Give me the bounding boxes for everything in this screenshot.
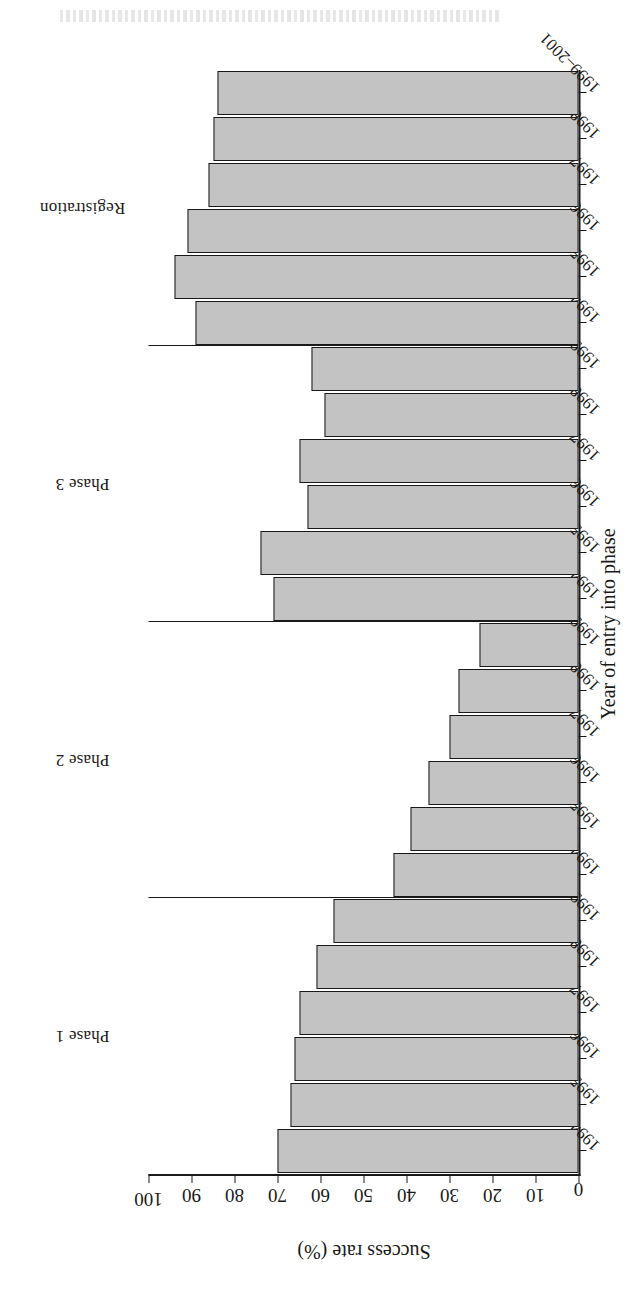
bar — [449, 715, 578, 759]
category-axis-title: Year of entry into phase — [596, 72, 619, 1176]
value-axis-tick-label: 60 — [309, 1185, 331, 1204]
group-label-text: Registration — [39, 198, 125, 218]
bar — [213, 117, 579, 161]
bar — [324, 393, 578, 437]
value-axis-tick-label: 0 — [567, 1185, 589, 1195]
category-axis-title-text: Year of entry into phase — [596, 528, 618, 719]
value-axis-tick — [191, 1174, 192, 1183]
bar — [174, 255, 578, 299]
value-axis-tick — [320, 1174, 321, 1183]
group-label: Phase 2 — [20, 622, 144, 898]
bar — [187, 209, 578, 253]
group-label-text: Phase 2 — [55, 750, 109, 770]
bar — [299, 439, 579, 483]
rotated-chart-wrapper: Success rate (%) 1009080706050403020100P… — [0, 0, 633, 1294]
value-axis-tick-label: 10 — [524, 1185, 546, 1204]
bar — [273, 577, 578, 621]
bar — [316, 945, 578, 989]
bar — [195, 301, 578, 345]
bar — [277, 1129, 578, 1173]
bar — [208, 163, 578, 207]
group-label: Phase 1 — [20, 898, 144, 1174]
chart-canvas: Success rate (%) 1009080706050403020100P… — [0, 0, 633, 1294]
value-axis-tick — [406, 1174, 407, 1183]
bar — [410, 807, 578, 851]
bar — [479, 623, 578, 667]
plot-area: 1009080706050403020100Phase 11994–199619… — [148, 70, 580, 1176]
bar — [458, 669, 578, 713]
value-axis-tick-label: 70 — [266, 1185, 288, 1204]
value-axis-tick-label: 30 — [438, 1185, 460, 1204]
bar — [260, 531, 578, 575]
value-axis-tick — [449, 1174, 450, 1183]
group-label-text: Phase 3 — [55, 474, 109, 494]
bar — [311, 347, 578, 391]
group-label-text: Phase 1 — [55, 1026, 109, 1046]
bar — [428, 761, 579, 805]
value-axis-tick — [148, 1174, 149, 1183]
value-axis-tick-label: 80 — [223, 1185, 245, 1204]
bar — [290, 1083, 578, 1127]
value-axis-title: Success rate (%) — [148, 1236, 578, 1266]
value-axis-tick — [535, 1174, 536, 1183]
value-axis-tick-label: 100 — [137, 1185, 159, 1214]
value-axis-title-text: Success rate (%) — [296, 1240, 429, 1263]
value-axis-tick — [277, 1174, 278, 1183]
group-label: Registration — [20, 70, 144, 346]
group-label: Phase 3 — [20, 346, 144, 622]
value-axis-tick-label: 90 — [180, 1185, 202, 1204]
bar — [333, 899, 578, 943]
bar — [294, 1037, 578, 1081]
value-axis-tick-label: 50 — [352, 1185, 374, 1204]
bar — [307, 485, 578, 529]
value-axis-tick-label: 20 — [481, 1185, 503, 1204]
bar — [393, 853, 578, 897]
value-axis-tick — [363, 1174, 364, 1183]
bar — [299, 991, 579, 1035]
bar — [217, 71, 578, 115]
value-axis-tick — [492, 1174, 493, 1183]
value-axis-tick-label: 40 — [395, 1185, 417, 1204]
value-axis-tick — [234, 1174, 235, 1183]
